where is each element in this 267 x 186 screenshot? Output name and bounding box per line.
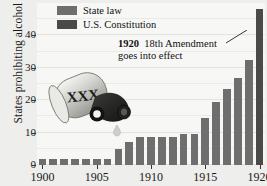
- x-tick-label: 1910: [131, 170, 171, 185]
- y-tick-label: 20: [16, 93, 36, 105]
- chart-figure: States prohibiting alcohol 010203040 190…: [0, 0, 267, 186]
- legend-label-state-law: State law: [83, 5, 122, 16]
- y-tick-mark: [32, 165, 36, 166]
- bar: [82, 159, 90, 165]
- bar: [158, 137, 166, 165]
- legend-label-us-constitution: U.S. Constitution: [83, 19, 156, 30]
- y-tick-mark: [32, 133, 36, 134]
- bar: [136, 137, 144, 165]
- bar: [245, 60, 253, 165]
- bar: [234, 78, 242, 165]
- x-tick-label: 1920: [240, 170, 267, 185]
- legend-swatch-state-law: [57, 6, 77, 15]
- moonshine-jug-icon: XXX: [47, 57, 139, 139]
- bar: [115, 149, 123, 165]
- bar: [212, 102, 220, 165]
- bar: [49, 159, 57, 165]
- bar: [147, 137, 155, 165]
- bar: [223, 89, 231, 165]
- x-tick-label: 1905: [77, 170, 117, 185]
- y-tick-label: 30: [16, 61, 36, 73]
- y-tick-mark: [32, 35, 36, 36]
- y-tick-mark: [32, 68, 36, 69]
- legend-swatch-us-constitution: [57, 20, 77, 29]
- x-tick-mark: [205, 165, 206, 169]
- bar: [169, 137, 177, 165]
- y-tick-label: 40: [16, 28, 36, 40]
- x-tick-mark: [260, 165, 261, 169]
- x-tick-mark: [151, 165, 152, 169]
- annotation-headline: 18th Amendment: [144, 38, 217, 49]
- bar: [104, 159, 112, 165]
- bar: [201, 118, 209, 165]
- x-tick-mark: [42, 165, 43, 169]
- legend-item-us-constitution: U.S. Constitution: [57, 18, 156, 30]
- legend: State law U.S. Constitution: [57, 4, 156, 32]
- x-tick-label: 1900: [22, 170, 62, 185]
- y-tick-mark: [32, 100, 36, 101]
- annotation-year: 1920: [118, 38, 139, 49]
- bar: [71, 159, 79, 165]
- bar: [191, 134, 199, 165]
- y-tick-label: 10: [16, 126, 36, 138]
- bar: [180, 134, 188, 165]
- legend-item-state-law: State law: [57, 4, 156, 16]
- bar: [125, 142, 133, 165]
- y-tick-label: 0: [16, 158, 36, 170]
- x-tick-mark: [97, 165, 98, 169]
- annotation-leader-line: [226, 30, 248, 44]
- x-tick-label: 1915: [185, 170, 225, 185]
- bar: [256, 9, 264, 165]
- annotation-line-1: 1920 18th Amendment: [118, 38, 217, 50]
- bar: [60, 159, 68, 165]
